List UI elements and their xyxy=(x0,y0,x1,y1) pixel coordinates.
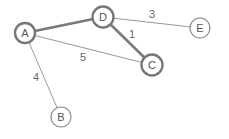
weight-label-d-e: 3 xyxy=(149,8,155,20)
edges xyxy=(25,17,200,117)
node-c-label: C xyxy=(148,59,156,71)
edge-a-d xyxy=(25,17,103,33)
node-c: C xyxy=(142,55,163,76)
node-b: B xyxy=(51,107,71,127)
node-d: D xyxy=(93,7,114,28)
graph-diagram: 3 1 5 4 A D C E B xyxy=(0,0,229,139)
node-e: E xyxy=(190,18,210,38)
node-a-label: A xyxy=(21,27,29,39)
node-a: A xyxy=(15,23,35,43)
edge-a-b xyxy=(25,33,61,117)
node-b-label: B xyxy=(57,111,64,123)
weight-label-d-c: 1 xyxy=(129,28,135,40)
weight-label-a-c: 5 xyxy=(80,51,86,63)
node-d-label: D xyxy=(99,11,107,23)
weight-label-a-b: 4 xyxy=(33,71,39,83)
node-e-label: E xyxy=(196,22,203,34)
